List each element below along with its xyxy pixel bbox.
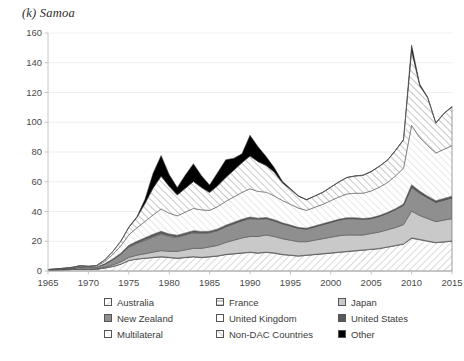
x-tick-label: 1985 (190, 277, 230, 288)
legend-swatch-icon (104, 330, 112, 338)
legend-item[interactable]: New Zealand (104, 313, 216, 324)
legend-item[interactable]: Multilateral (104, 329, 216, 340)
legend-label: Other (351, 329, 375, 340)
legend-swatch-icon (338, 330, 346, 338)
x-tick-label: 2010 (392, 277, 432, 288)
x-tick-label: 2015 (432, 277, 464, 288)
x-tick-label: 2000 (311, 277, 351, 288)
x-tick-label: 1990 (230, 277, 270, 288)
y-tick-label: 100 (8, 116, 42, 127)
legend-row: MultilateralNon-DAC CountriesOther (104, 326, 434, 342)
legend-item[interactable]: United Kingdom (216, 313, 338, 324)
legend-label: Non-DAC Countries (229, 329, 313, 340)
legend-item[interactable]: France (216, 297, 338, 308)
legend-swatch-icon (338, 314, 346, 322)
y-tick-label: 40 (8, 206, 42, 217)
y-tick-label: 20 (8, 235, 42, 246)
chart-figure: (k) Samoa (0, 0, 464, 361)
legend-swatch-icon (338, 298, 346, 306)
y-tick-label: 120 (8, 87, 42, 98)
legend-label: Multilateral (117, 329, 163, 340)
chart-area-series (48, 45, 452, 271)
legend-item[interactable]: United States (338, 313, 434, 324)
legend-swatch-icon (216, 330, 224, 338)
chart-legend: AustraliaFranceJapanNew ZealandUnited Ki… (104, 294, 434, 346)
legend-item[interactable]: Australia (104, 297, 216, 308)
x-tick-label: 1975 (109, 277, 149, 288)
legend-label: Japan (351, 297, 377, 308)
y-tick-label: 0 (8, 265, 42, 276)
y-tick-label: 80 (8, 146, 42, 157)
legend-item[interactable]: Japan (338, 297, 434, 308)
legend-label: United Kingdom (229, 313, 297, 324)
legend-swatch-icon (216, 314, 224, 322)
x-tick-label: 1965 (28, 277, 68, 288)
legend-row: New ZealandUnited KingdomUnited States (104, 310, 434, 326)
legend-swatch-icon (104, 314, 112, 322)
legend-label: France (229, 297, 259, 308)
y-tick-label: 140 (8, 57, 42, 68)
legend-row: AustraliaFranceJapan (104, 294, 434, 310)
y-tick-label: 160 (8, 27, 42, 38)
legend-item[interactable]: Non-DAC Countries (216, 329, 338, 340)
x-tick-label: 1995 (270, 277, 310, 288)
legend-label: United States (351, 313, 408, 324)
y-tick-label: 60 (8, 176, 42, 187)
legend-swatch-icon (216, 298, 224, 306)
x-tick-label: 1980 (149, 277, 189, 288)
legend-label: Australia (117, 297, 154, 308)
legend-label: New Zealand (117, 313, 173, 324)
legend-item[interactable]: Other (338, 329, 434, 340)
x-tick-label: 2005 (351, 277, 391, 288)
x-tick-label: 1970 (68, 277, 108, 288)
legend-swatch-icon (104, 298, 112, 306)
